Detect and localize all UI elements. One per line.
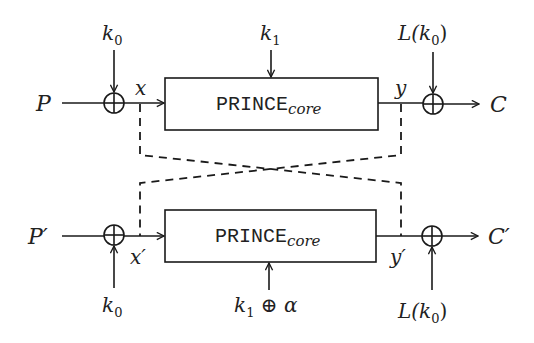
xor-icon <box>422 226 442 246</box>
yprime-label: y′ <box>389 245 406 269</box>
ciphertext-label: C <box>490 92 507 117</box>
key-lk0-label: L(k0) <box>397 21 447 48</box>
key-lk0-prime-label: L(k0) <box>397 299 447 326</box>
bottom-row: P′ k0 x′ PRINCEcore k1 ⊕ α y′ L(k <box>27 210 510 326</box>
xor-icon <box>104 93 124 113</box>
ciphertext-prime-label: C′ <box>488 224 510 249</box>
top-row: P k0 x PRINCEcore k1 y L(k0) <box>35 21 507 130</box>
x-label: x <box>135 76 146 100</box>
xor-icon <box>423 94 443 114</box>
xprime-label: x′ <box>130 245 146 269</box>
key-k1-alpha-label: k1 ⊕ α <box>234 293 298 320</box>
key-k0-label: k0 <box>102 21 122 48</box>
prince-diagram: P k0 x PRINCEcore k1 y L(k0) <box>0 0 534 343</box>
plaintext-prime-label: P′ <box>27 224 48 249</box>
y-label: y <box>394 76 407 100</box>
plaintext-label: P <box>35 91 52 116</box>
key-k0-prime-label: k0 <box>102 293 122 320</box>
key-k1-label: k1 <box>260 21 280 48</box>
xor-icon <box>104 225 124 245</box>
